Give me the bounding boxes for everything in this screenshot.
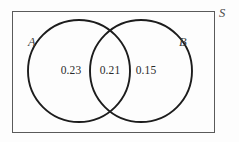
universal-set-label: S <box>219 7 225 20</box>
region-value-a-only: 0.23 <box>61 65 82 77</box>
region-value-b-only: 0.15 <box>136 65 157 77</box>
region-value-intersection: 0.21 <box>100 65 121 77</box>
set-label-b: B <box>179 36 187 49</box>
venn-diagram-figure: A B S 0.23 0.21 0.15 <box>0 0 239 142</box>
set-label-a: A <box>28 36 36 49</box>
